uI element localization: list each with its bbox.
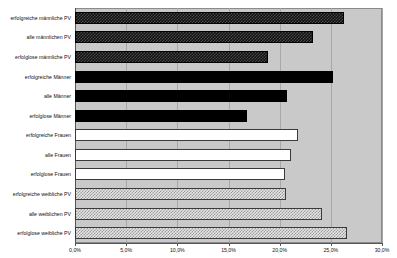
category-label: erfolgreiche weibliche PV <box>0 190 71 198</box>
bar-10 <box>75 188 286 200</box>
tick-mark <box>229 243 230 246</box>
category-label: erfolglose männliche PV <box>0 53 71 61</box>
category-label: erfolgreiche Männer <box>0 73 71 81</box>
gridline-30,0% <box>382 8 383 243</box>
x-tick-label: 0,0% <box>55 247 95 253</box>
bar-9 <box>75 168 285 180</box>
bar-chart: erfolgreiche männliche PValle männlichen… <box>0 0 397 258</box>
bar-2 <box>75 31 313 43</box>
category-label: alle Frauen <box>0 151 71 159</box>
category-label: erfolglose weibliche PV <box>0 229 71 237</box>
category-label: alle weiblichen PV <box>0 210 71 218</box>
bar-row <box>75 184 382 204</box>
bar-row <box>75 126 382 146</box>
x-tick-label: 20,0% <box>260 247 300 253</box>
bar-7 <box>75 129 298 141</box>
x-tick-label: 30,0% <box>362 247 397 253</box>
bar-row <box>75 165 382 185</box>
tick-mark <box>280 243 281 246</box>
bar-6 <box>75 110 247 122</box>
bar-8 <box>75 149 291 161</box>
x-tick-label: 10,0% <box>157 247 197 253</box>
bar-11 <box>75 208 322 220</box>
bar-row <box>75 145 382 165</box>
category-label: erfolglose Männer <box>0 112 71 120</box>
bar-12 <box>75 227 347 239</box>
category-label: alle Männer <box>0 92 71 100</box>
category-label: erfolgreiche männliche PV <box>0 14 71 22</box>
tick-mark <box>382 243 383 246</box>
category-label: erfolgreiche Frauen <box>0 131 71 139</box>
tick-mark <box>126 243 127 246</box>
tick-mark <box>331 243 332 246</box>
bar-row <box>75 106 382 126</box>
bar-row <box>75 28 382 48</box>
bar-row <box>75 67 382 87</box>
bars-layer <box>75 8 382 243</box>
bar-row <box>75 223 382 243</box>
bar-row <box>75 8 382 28</box>
category-label: erfolglose Frauen <box>0 170 71 178</box>
bar-3 <box>75 51 268 63</box>
bar-row <box>75 86 382 106</box>
tick-mark <box>75 243 76 246</box>
category-label: alle männlichen PV <box>0 33 71 41</box>
bar-row <box>75 204 382 224</box>
bar-4 <box>75 71 333 83</box>
bar-5 <box>75 90 287 102</box>
bar-1 <box>75 12 344 24</box>
tick-mark <box>177 243 178 246</box>
bar-row <box>75 47 382 67</box>
x-tick-label: 25,0% <box>311 247 351 253</box>
x-tick-label: 15,0% <box>209 247 249 253</box>
x-tick-label: 5,0% <box>106 247 146 253</box>
